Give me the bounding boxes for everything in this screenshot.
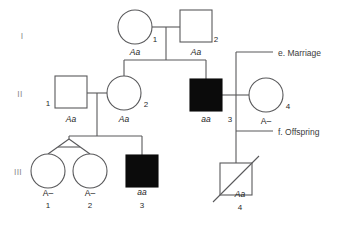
genotype-label-III-3: aa	[137, 187, 147, 197]
individual-I-2[interactable]	[180, 10, 212, 42]
individual-II-3[interactable]	[190, 79, 222, 111]
individual-I-1[interactable]	[118, 10, 152, 44]
id-number-III-4: 4	[238, 203, 243, 212]
individual-II-2[interactable]	[107, 76, 141, 110]
id-number-III-3: 3	[140, 201, 145, 210]
genotype-label-III-1: A–	[43, 188, 54, 198]
genotype-label-II-3: aa	[201, 114, 211, 124]
genotype-label-II-1: Aa	[65, 114, 77, 124]
id-number-III-1: 1	[46, 201, 51, 210]
genotype-label-II-2: Aa	[118, 114, 130, 124]
id-number-I-1: 1	[153, 35, 158, 44]
genotype-label-III-2: A–	[85, 188, 96, 198]
id-number-II-2: 2	[144, 100, 149, 109]
annotation-offspring-label: f. Offspring	[278, 127, 320, 137]
genotype-label-II-4: A–	[261, 116, 272, 126]
id-number-II-4: 4	[286, 102, 291, 111]
pedigree-canvas: I II III 1 2 1 2 3 4 1 2 3 4 Aa Aa Aa Aa…	[0, 0, 351, 225]
individual-III-2[interactable]	[73, 154, 107, 188]
generation-label-I: I	[21, 31, 24, 41]
genotype-label-I-2: Aa	[190, 47, 202, 57]
id-number-II-1: 1	[46, 99, 51, 108]
generation-label-III: III	[14, 167, 22, 177]
annotation-marriage-label: e. Marriage	[278, 48, 321, 58]
id-number-I-2: 2	[214, 35, 219, 44]
individual-III-3[interactable]	[126, 155, 158, 187]
id-number-II-3: 3	[228, 115, 233, 124]
individual-II-4[interactable]	[249, 78, 283, 112]
individual-III-1[interactable]	[31, 154, 65, 188]
generation-label-II: II	[17, 89, 22, 99]
id-number-III-2: 2	[88, 201, 93, 210]
pedigree-chart-figure: I II III 1 2 1 2 3 4 1 2 3 4 Aa Aa Aa Aa…	[0, 0, 351, 225]
individual-II-1[interactable]	[55, 76, 87, 108]
genotype-label-I-1: Aa	[129, 47, 141, 57]
genotype-label-III-4: Aa	[234, 189, 246, 199]
